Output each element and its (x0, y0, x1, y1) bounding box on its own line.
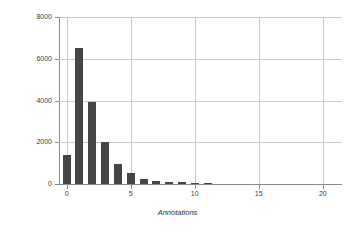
y-tick-label: 2000 (18, 138, 52, 146)
x-tick-label: 15 (247, 190, 271, 198)
bar (140, 179, 148, 184)
x-tick-mark (131, 185, 132, 189)
bar (63, 155, 71, 184)
y-tick-label: 8000 (18, 13, 52, 21)
bar (88, 102, 96, 184)
y-tick-label: 4000 (18, 97, 52, 105)
bar (114, 164, 122, 184)
bar (165, 182, 173, 184)
x-axis-line (59, 184, 342, 185)
bar (75, 48, 83, 184)
x-tick-mark (67, 185, 68, 189)
x-tick-mark (259, 185, 260, 189)
x-tick-label: 10 (183, 190, 207, 198)
bar (178, 182, 186, 184)
x-tick-label: 20 (311, 190, 335, 198)
x-tick-mark (195, 185, 196, 189)
y-tick-mark (55, 184, 59, 185)
x-tick-label: 5 (119, 190, 143, 198)
bar (191, 183, 199, 184)
x-axis-title: Annotations (0, 208, 355, 217)
bar (204, 183, 212, 184)
bar-chart: 02000400060008000 05101520 Annotations T… (0, 0, 355, 232)
x-tick-mark (323, 185, 324, 189)
bar (152, 181, 160, 184)
bar (127, 173, 135, 184)
y-tick-label: 6000 (18, 55, 52, 63)
bar (101, 142, 109, 184)
bar-series (59, 17, 342, 184)
y-tick-label: 0 (18, 180, 52, 188)
x-tick-label: 0 (55, 190, 79, 198)
